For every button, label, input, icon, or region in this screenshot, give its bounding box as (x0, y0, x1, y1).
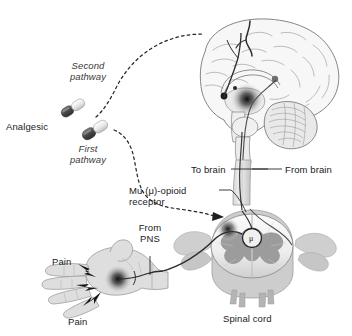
capsule-lower (80, 118, 109, 141)
analgesic-capsules (60, 97, 110, 141)
hand-illustration (42, 240, 168, 318)
label-pain-upper: Pain (52, 256, 71, 267)
label-analgesic: Analgesic (6, 121, 48, 132)
label-from-pns: From PNS (128, 222, 172, 244)
opioid-pathway-diagram: Second pathway Analgesic First pathway M… (0, 0, 352, 336)
label-mu-opioid-receptor: Mu (μ)-opioid receptor (129, 185, 186, 207)
brainstem-column (233, 160, 251, 205)
brain-illustration (200, 19, 338, 184)
label-pain-lower: Pain (68, 316, 87, 327)
label-to-brain: To brain (191, 164, 226, 175)
label-from-brain: From brain (285, 164, 332, 175)
label-first-pathway: First pathway (58, 143, 118, 165)
dorsal-horn-receptor-spot (216, 217, 240, 241)
mu-symbol-label: μ (249, 234, 253, 243)
label-second-pathway: Second pathway (58, 60, 118, 82)
finger-middle (42, 276, 87, 289)
capsule-upper (60, 97, 87, 119)
brain-receptor-dot-mid (233, 86, 237, 90)
label-spinal-cord: Spinal cord (223, 313, 272, 324)
